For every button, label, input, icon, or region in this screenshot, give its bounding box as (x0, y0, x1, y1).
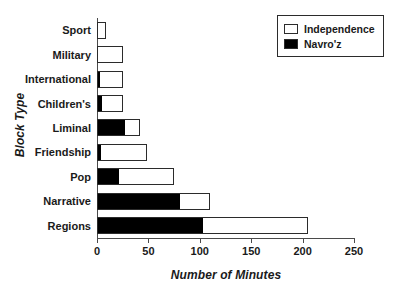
bar-segment-independence (203, 218, 307, 233)
y-category-label: Children's (38, 98, 91, 110)
bar-segment-independence (100, 72, 122, 87)
x-tick-label: 50 (142, 245, 154, 257)
legend-label: Independence (304, 23, 375, 35)
legend-item: Independence (284, 21, 375, 36)
stacked-bar (97, 22, 106, 39)
bar-row: Friendship (97, 140, 147, 164)
stacked-bar (97, 144, 147, 161)
bar-segment-navroz (98, 218, 203, 233)
bar-row: Regions (97, 214, 308, 238)
x-tick-mark (354, 238, 355, 243)
bar-segment-independence (98, 47, 122, 62)
bar-segment-independence (101, 145, 146, 160)
x-tick-label: 250 (345, 245, 363, 257)
x-tick-mark (200, 238, 201, 243)
bar-row: Sport (97, 18, 106, 42)
y-category-label: Friendship (35, 146, 91, 158)
bar-segment-independence (125, 120, 139, 135)
x-tick-mark (148, 238, 149, 243)
x-tick-label: 0 (94, 245, 100, 257)
stacked-bar (97, 46, 123, 63)
x-tick-label: 200 (293, 245, 311, 257)
legend-item: Navro'z (284, 36, 375, 51)
bar-segment-navroz (98, 169, 119, 184)
y-category-label: Military (52, 49, 91, 61)
bar-row: Narrative (97, 189, 210, 213)
x-axis-title: Number of Minutes (97, 268, 355, 282)
bar-segment-navroz (98, 120, 125, 135)
y-category-label: Sport (62, 24, 91, 36)
legend-label: Navro'z (304, 38, 342, 50)
bar-chart: Block Type 050100150200250 SportMilitary… (0, 0, 396, 297)
legend-swatch-icon (284, 24, 298, 34)
bar-row: Pop (97, 165, 174, 189)
y-category-label: Regions (48, 220, 91, 232)
y-category-label: Liminal (52, 122, 91, 134)
y-category-label: Narrative (43, 195, 91, 207)
chart-legend: IndependenceNavro'z (277, 15, 384, 57)
stacked-bar (97, 71, 123, 88)
x-axis-line (97, 238, 355, 239)
x-tick-mark (251, 238, 252, 243)
bar-segment-independence (102, 96, 122, 111)
bar-segment-navroz (98, 194, 180, 209)
stacked-bar (97, 217, 308, 234)
x-tick-label: 100 (191, 245, 209, 257)
bar-row: Military (97, 42, 123, 66)
bar-segment-independence (119, 169, 174, 184)
x-tick-mark (303, 238, 304, 243)
x-tick-label: 150 (242, 245, 260, 257)
stacked-bar (97, 119, 140, 136)
stacked-bar (97, 168, 174, 185)
x-tick-mark (97, 238, 98, 243)
bar-segment-independence (98, 23, 105, 38)
bar-row: Liminal (97, 116, 140, 140)
legend-swatch-icon (284, 39, 298, 49)
bar-segment-independence (180, 194, 209, 209)
stacked-bar (97, 193, 210, 210)
y-category-label: International (25, 73, 91, 85)
y-category-label: Pop (70, 171, 91, 183)
bar-row: International (97, 67, 123, 91)
stacked-bar (97, 95, 123, 112)
bar-row: Children's (97, 91, 123, 115)
